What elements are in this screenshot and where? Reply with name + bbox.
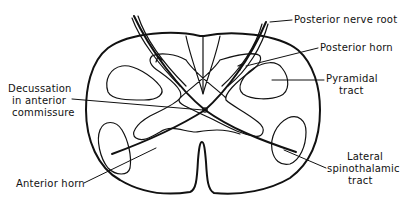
- label-lateral-spinothalamic-line3: tract: [348, 175, 373, 186]
- pyramidal-tract-right: [240, 63, 288, 99]
- label-decussation-line1: Decussation: [8, 83, 72, 94]
- fibre-path-right: [112, 22, 266, 154]
- label-pyramidal-tract-line2: tract: [339, 85, 364, 96]
- pyramidal-tract-left: [107, 66, 162, 100]
- label-pyramidal-tract-line1: Pyramidal: [326, 73, 378, 84]
- label-posterior-horn: Posterior horn: [320, 42, 393, 53]
- label-lateral-spinothalamic-line2: spinothalamic: [327, 163, 400, 174]
- label-anterior-horn: Anterior horn: [16, 178, 85, 189]
- label-decussation-line2: in anterior: [12, 95, 66, 106]
- label-posterior-nerve-root: Posterior nerve root: [294, 14, 397, 25]
- leader-posterior-nerve-root: [270, 20, 292, 22]
- label-decussation-line3: commissure: [12, 107, 75, 118]
- label-lateral-spinothalamic-line1: Lateral: [340, 151, 390, 162]
- leader-lateral-spinothalamic: [284, 150, 326, 168]
